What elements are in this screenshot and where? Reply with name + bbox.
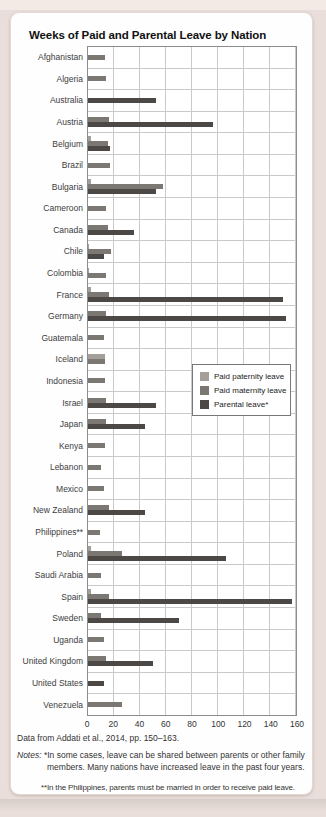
- bar-parental: [88, 599, 292, 604]
- category-label: United States: [11, 678, 83, 688]
- bar-parental: [88, 122, 213, 127]
- chart-row: New Zealand: [88, 500, 296, 522]
- category-label: Guatemala: [11, 333, 83, 343]
- plot-area: Paid paternity leavePaid maternity leave…: [87, 46, 297, 716]
- bar-maternity: [88, 163, 110, 168]
- chart-row: Kenya: [88, 435, 296, 457]
- category-label: Spain: [11, 592, 83, 602]
- bar-parental: [88, 146, 110, 151]
- chart-row: Uganda: [88, 630, 296, 652]
- legend-item: Paid maternity leave: [200, 386, 283, 395]
- chart-row: Saudi Arabia: [88, 565, 296, 587]
- x-tick-label: 160: [290, 719, 304, 729]
- chart-row: Australia: [88, 90, 296, 112]
- category-label: Japan: [11, 419, 83, 429]
- category-label: Philippines**: [11, 527, 83, 537]
- bar-parental: [88, 297, 283, 302]
- category-label: Canada: [11, 225, 83, 235]
- chart-row: Belgium: [88, 133, 296, 155]
- bar-maternity: [88, 273, 106, 278]
- chart-row: Philippines**: [88, 522, 296, 544]
- chart-row: Lebanon: [88, 457, 296, 479]
- bar-parental: [88, 230, 134, 235]
- bar-parental: [88, 510, 145, 515]
- category-label: Lebanon: [11, 462, 83, 472]
- x-tick-label: 120: [237, 719, 251, 729]
- legend-label: Paid paternity leave: [214, 372, 284, 381]
- notes-text: Notes: *In some cases, leave can be shar…: [17, 749, 311, 774]
- category-label: Colombia: [11, 268, 83, 278]
- legend-label: Paid maternity leave: [214, 386, 286, 395]
- data-source-caption: Data from Addati et al., 2014, pp. 150–1…: [17, 733, 312, 743]
- category-label: Belgium: [11, 139, 83, 149]
- chart-title: Weeks of Paid and Parental Leave by Nati…: [29, 29, 266, 41]
- page-top-strip: [0, 0, 326, 10]
- chart-row: Cameroon: [88, 198, 296, 220]
- bar-maternity: [88, 573, 101, 578]
- category-label: Kenya: [11, 441, 83, 451]
- bar-maternity: [88, 637, 104, 642]
- chart-row: France: [88, 284, 296, 306]
- legend-swatch-maternity: [200, 386, 209, 395]
- chart-row: Japan: [88, 414, 296, 436]
- bar-parental: [88, 661, 153, 666]
- chart-row: United Kingdom: [88, 651, 296, 673]
- bar-maternity: [88, 76, 106, 81]
- chart-row: Colombia: [88, 263, 296, 285]
- category-label: Uganda: [11, 635, 83, 645]
- figure-card: Weeks of Paid and Parental Leave by Nati…: [10, 12, 313, 795]
- note-2: **In the Philippines, parents must be ma…: [41, 783, 326, 792]
- category-label: Mexico: [11, 484, 83, 494]
- bar-parental: [88, 403, 156, 408]
- legend-swatch-parental: [200, 400, 209, 409]
- x-tick-label: 60: [161, 719, 170, 729]
- chart-row: Spain: [88, 586, 296, 608]
- bar-maternity: [88, 335, 104, 340]
- category-label: Afghanistan: [11, 52, 83, 62]
- bar-maternity: [88, 378, 105, 383]
- category-label: Austria: [11, 117, 83, 127]
- legend-item: Paid paternity leave: [200, 372, 283, 381]
- category-label: Germany: [11, 311, 83, 321]
- chart-row: Mexico: [88, 479, 296, 501]
- chart-row: Afghanistan: [88, 47, 296, 69]
- bar-parental: [88, 618, 179, 623]
- chart-row: United States: [88, 673, 296, 695]
- category-label: Australia: [11, 95, 83, 105]
- category-label: Bulgaria: [11, 182, 83, 192]
- bar-parental: [88, 98, 156, 103]
- bar-parental: [88, 254, 104, 259]
- bar-parental: [88, 424, 145, 429]
- bar-parental: [88, 189, 156, 194]
- bar-maternity: [88, 530, 100, 535]
- chart-row: Austria: [88, 112, 296, 134]
- x-tick-label: 100: [211, 719, 225, 729]
- category-label: Saudi Arabia: [11, 570, 83, 580]
- page-bottom-shadow: [0, 799, 326, 811]
- bar-parental: [88, 556, 226, 561]
- bar-maternity: [88, 206, 106, 211]
- bar-maternity: [88, 486, 104, 491]
- bar-maternity: [88, 702, 122, 707]
- chart-row: Poland: [88, 543, 296, 565]
- x-tick-label: 80: [187, 719, 196, 729]
- category-label: Iceland: [11, 354, 83, 364]
- chart-row: Canada: [88, 220, 296, 242]
- category-label: Indonesia: [11, 376, 83, 386]
- category-label: New Zealand: [11, 505, 83, 515]
- chart-row: Bulgaria: [88, 176, 296, 198]
- legend-item: Parental leave*: [200, 400, 283, 409]
- category-label: Venezuela: [11, 700, 83, 710]
- legend: Paid paternity leavePaid maternity leave…: [192, 364, 291, 416]
- category-label: Cameroon: [11, 203, 83, 213]
- bar-maternity: [88, 55, 105, 60]
- x-tick-label: 20: [109, 719, 118, 729]
- note-1: *In some cases, leave can be shared betw…: [44, 750, 305, 772]
- bar-maternity: [88, 443, 105, 448]
- category-label: Chile: [11, 246, 83, 256]
- category-label: Brazil: [11, 160, 83, 170]
- chart-row: Algeria: [88, 69, 296, 91]
- legend-swatch-paternity: [200, 372, 209, 381]
- bar-parental: [88, 316, 286, 321]
- x-axis: 020406080100120140160: [87, 719, 297, 731]
